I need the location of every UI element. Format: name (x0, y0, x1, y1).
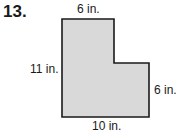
l-shape (62, 19, 149, 117)
top-side-label: 6 in. (77, 2, 100, 16)
right-side-label: 6 in. (154, 83, 177, 97)
l-shape-figure (0, 0, 179, 132)
left-side-label: 11 in. (30, 62, 58, 76)
bottom-side-label: 10 in. (92, 119, 121, 132)
